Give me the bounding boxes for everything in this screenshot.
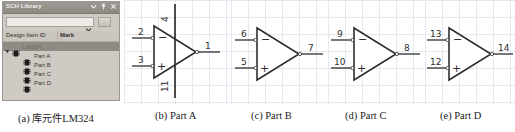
column-divider[interactable] [57,31,58,41]
panel-title-bar[interactable]: SCH Library [3,2,119,14]
tree-item-label: Part A [34,53,50,59]
pin-icon[interactable] [100,3,107,10]
caption-c-prefix: (c) [251,110,263,121]
column-header-mark[interactable]: Mark [60,32,74,38]
tree-item-label: LM324 [23,44,41,50]
pin-label-noninverting: 10 [334,57,346,67]
schematic-part-c: 9 − 10 + 8 [328,0,424,104]
component-icon [23,70,31,77]
panel-title: SCH Library [6,3,42,9]
panel-title-icons [90,3,117,10]
noninverting-symbol: + [260,62,269,75]
pin-label-output: 14 [498,43,510,53]
search-combo[interactable] [6,17,94,27]
tree-item-part-d[interactable]: Part D [3,78,120,87]
tree-column-headers: Design Item ID Mark [3,31,120,42]
pin-label-output: 8 [404,43,410,53]
sch-library-panel-container: SCH Library [0,0,122,104]
component-icon [23,52,31,59]
caption-e-text: Part D [454,110,481,121]
caption-b-prefix: (b) [155,110,167,121]
caption-b-text: Part A [170,110,197,121]
noninverting-symbol: + [452,62,461,75]
noninverting-symbol: + [157,60,166,73]
caption-e: (e) Part D [440,110,481,121]
schematic-part-b: 6 − 5 + 7 [231,0,327,104]
inverting-symbol: − [261,33,270,46]
tree-item-label: Part C [34,71,51,77]
inverting-symbol: − [453,33,462,46]
search-apply-button[interactable] [98,17,111,27]
caption-d: (d) Part C [345,110,386,121]
component-icon [12,43,20,50]
expander-collapse-icon[interactable] [3,42,12,51]
pin-label-power-positive: 4 [160,16,170,22]
panel-search-row [3,14,120,30]
pin-label-power-negative: 11 [160,81,170,92]
tree-item-part-b[interactable]: Part B [3,60,120,69]
tree-item-label: Part D [34,80,51,86]
caption-c-text: Part B [265,110,292,121]
close-icon[interactable] [110,3,117,10]
pin-label-noninverting: 5 [241,57,247,67]
inverting-symbol: − [358,33,367,46]
pin-label-noninverting: 3 [138,55,144,65]
figure-lm324-library: SCH Library [0,0,515,132]
caption-a: (a) 库元件LM324 [18,110,94,125]
component-icon [23,61,31,68]
pin-label-inverting: 2 [138,27,144,37]
caption-a-chinese: 库元件 [32,113,62,124]
tree-item-part-a[interactable]: Part A [3,51,120,60]
column-header-design-item-id[interactable]: Design Item ID [6,32,46,38]
inverting-symbol: − [158,31,167,44]
chevron-down-icon[interactable] [90,3,97,10]
pin-label-output: 1 [205,41,211,51]
pin-label-inverting: 9 [337,29,343,39]
pin-label-inverting: 13 [430,29,441,39]
component-icon [23,79,31,86]
pin-label-noninverting: 12 [430,57,441,67]
tree-item-label: Part B [34,62,51,68]
tree-item-part-c[interactable]: Part C [3,69,120,78]
tree-item-lm324[interactable]: LM324 [3,42,120,51]
caption-d-text: Part C [360,110,387,121]
schematic-part-d: 13 − 12 + 14 [425,0,515,104]
schematic-part-a: 2 − 3 + 1 4 11 [124,0,230,104]
sort-ascending-icon[interactable] [50,34,55,38]
caption-a-prefix: (a) [18,113,30,124]
caption-b: (b) Part A [155,110,196,121]
pin-label-output: 7 [308,43,314,53]
noninverting-symbol: + [357,62,366,75]
sch-library-panel: SCH Library [2,1,120,101]
pin-label-inverting: 6 [241,29,247,39]
caption-e-prefix: (e) [440,110,452,121]
library-tree: LM324 Part A Part B [3,42,120,89]
chevron-down-icon[interactable] [85,19,92,26]
caption-c: (c) Part B [251,110,292,121]
caption-d-prefix: (d) [345,110,357,121]
caption-a-text: LM324 [62,113,94,124]
